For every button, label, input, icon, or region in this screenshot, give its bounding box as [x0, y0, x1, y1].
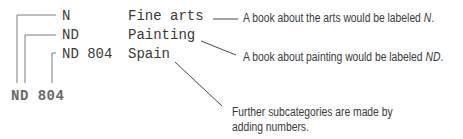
code-nd: ND [62, 28, 79, 42]
annotation-arts: A book about the arts would be labeled N… [243, 11, 434, 26]
bracket-nd [25, 35, 56, 83]
code-nd-804: ND 804 [62, 47, 112, 61]
call-number: ND 804 [11, 89, 64, 103]
bracket-n [17, 15, 56, 83]
annotation-painting-suffix: . [440, 50, 443, 64]
library-classification-diagram: N ND ND 804 Fine arts Painting Spain ND … [0, 0, 463, 139]
callout-line-spain [175, 62, 222, 106]
bracket-nd804 [52, 53, 56, 83]
subject-spain: Spain [128, 47, 170, 61]
annotation-painting-code: ND [425, 50, 440, 64]
annotation-subcategories-line1: Further subcategories are made by [232, 105, 393, 120]
annotation-painting: A book about painting would be labeled N… [243, 50, 443, 65]
annotation-arts-text: A book about the arts would be labeled [243, 11, 424, 25]
subject-fine-arts: Fine arts [128, 9, 204, 23]
subject-painting: Painting [128, 28, 195, 42]
annotation-painting-text: A book about painting would be labeled [243, 50, 425, 64]
annotation-subcategories-line2: adding numbers. [232, 120, 393, 135]
code-n: N [62, 9, 70, 23]
callout-line-painting [201, 41, 236, 55]
annotation-arts-code: N [424, 11, 431, 25]
annotation-arts-suffix: . [431, 11, 434, 25]
annotation-subcategories: Further subcategories are made by adding… [232, 105, 393, 135]
